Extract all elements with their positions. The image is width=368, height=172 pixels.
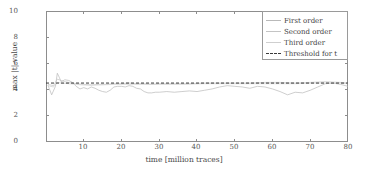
y-tick-label: 0: [0, 138, 18, 145]
legend-label: Threshold for t: [284, 50, 337, 58]
x-axis-label: time [million traces]: [0, 155, 368, 164]
legend-item-threshold: Threshold for t: [266, 48, 344, 59]
legend-line-sample-icon: [266, 28, 281, 35]
x-tick-label: 10: [68, 144, 98, 151]
legend-dashed-sample-icon: [266, 50, 281, 57]
legend-label: First order: [284, 17, 323, 25]
x-tick-label: 30: [144, 144, 174, 151]
y-axis-label: max |t|-value: [10, 17, 19, 117]
x-tick-label: 80: [333, 144, 363, 151]
chart-legend: First order Second order Third order Thr…: [262, 11, 348, 60]
y-tick-label: 10: [0, 8, 18, 15]
legend-item-second-order: Second order: [266, 26, 344, 37]
legend-line-sample-icon: [266, 39, 281, 46]
x-tick-label: 60: [257, 144, 287, 151]
legend-label: Third order: [284, 39, 325, 47]
legend-item-third-order: Third order: [266, 37, 344, 48]
x-tick-label: 70: [295, 144, 325, 151]
legend-line-sample-icon: [266, 17, 281, 24]
x-tick-label: 50: [219, 144, 249, 151]
legend-item-first-order: First order: [266, 15, 344, 26]
x-tick-label: 40: [181, 144, 211, 151]
legend-label: Second order: [284, 28, 332, 36]
x-tick-label: 20: [106, 144, 136, 151]
chart-figure: 10 8 6 4 2 0 10 20 30 40 50 60 70 80 tim…: [0, 0, 368, 172]
